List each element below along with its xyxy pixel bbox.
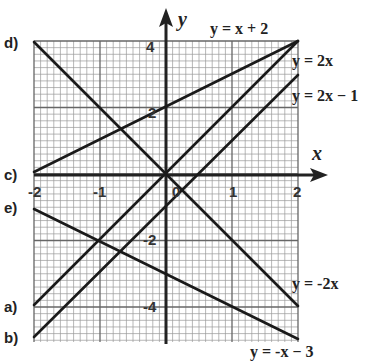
y-axis-label: y <box>176 8 187 31</box>
tick-y-2: 2 <box>148 104 156 121</box>
letter-e: e) <box>4 199 17 216</box>
eq-y-neg-x-minus-3: y = -x − 3 <box>250 343 314 361</box>
x-axis-label: x <box>311 142 322 164</box>
tick-y-neg4: -4 <box>143 298 157 315</box>
tick-y-neg2: -2 <box>143 231 156 248</box>
eq-y-x-plus-2: y = x + 2 <box>210 20 268 38</box>
eq-y-2x-minus-1: y = 2x − 1 <box>292 87 358 105</box>
tick-x-neg2: -2 <box>28 183 41 200</box>
tick-x-neg1: -1 <box>93 183 106 200</box>
tick-x-0: 0 <box>172 183 180 200</box>
tick-x-2: 2 <box>293 183 301 200</box>
letter-b: b) <box>4 329 18 346</box>
eq-y-neg-2x: y = -2x <box>292 275 338 293</box>
tick-y-4: 4 <box>146 38 155 55</box>
letter-d: d) <box>4 34 18 51</box>
letter-c: c) <box>4 166 17 183</box>
tick-x-1: 1 <box>229 183 237 200</box>
eq-y-2x: y = 2x <box>292 52 333 70</box>
graph: y x 4 2 -2 -4 -2 -1 0 1 2 d) c) e) a) b)… <box>0 0 385 364</box>
letter-a: a) <box>4 298 17 315</box>
